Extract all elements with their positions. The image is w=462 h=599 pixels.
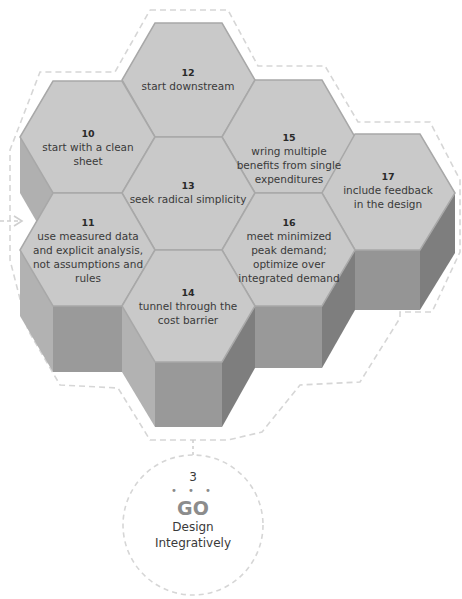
hex-label-15: 15 wring multiple benefits from single e… [230,131,348,186]
hex-label-12: 12 start downstream [142,66,235,93]
hex-number: 12 [142,66,235,79]
hex-text: seek radical simplicity [130,193,247,205]
hex-number: 13 [123,179,253,192]
hex-label-10: 10 start with a clean sheet [28,127,148,168]
hex-text: meet minimized peak demand; optimize ove… [238,230,339,284]
hex-label-16: 16 meet minimized peak demand; optimize … [235,216,343,285]
step-subtitle-line2: Integratively [155,535,231,551]
hex-label-11: 11 use measured data and explicit analys… [32,216,144,285]
hex-label-13: 13 seek radical simplicity [123,179,253,206]
hex-text: include feedback in the design [343,184,433,210]
step-title: GO [155,497,231,519]
hex-number: 11 [32,216,144,229]
hex-text: use measured data and explicit analysis,… [33,230,143,284]
hex-label-14: 14 tunnel through the cost barrier [138,286,238,327]
hex-text: start with a clean sheet [42,141,133,167]
hex-number: 15 [230,131,348,144]
hex-text: tunnel through the cost barrier [139,300,238,326]
step-subtitle-line1: Design [155,519,231,535]
hex-number: 14 [138,286,238,299]
step-dots: • • • [155,485,231,497]
step-label: 3 • • • GO Design Integratively [155,469,231,551]
hex-number: 10 [28,127,148,140]
hex-number: 17 [338,170,438,183]
hex-text: start downstream [142,80,235,92]
hex-label-17: 17 include feedback in the design [338,170,438,211]
step-number: 3 [155,469,231,485]
hex-number: 16 [235,216,343,229]
